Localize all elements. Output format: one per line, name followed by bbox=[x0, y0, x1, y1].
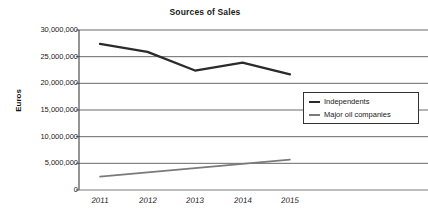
legend-label-independents: Independents bbox=[324, 97, 369, 106]
series-line bbox=[100, 160, 290, 177]
legend-item-major-oil-companies[interactable]: Major oil companies bbox=[306, 108, 418, 121]
x-axis-tick-label: 2012 bbox=[127, 196, 168, 205]
legend-label-major-oil-companies: Major oil companies bbox=[324, 110, 391, 119]
x-axis-tick-label: 2014 bbox=[222, 196, 263, 205]
x-axis-tick-label: 2011 bbox=[80, 196, 121, 205]
line-chart: Sources of Sales Euros 05,000,00010,000,… bbox=[0, 0, 428, 218]
x-axis-tick-label: 2015 bbox=[270, 196, 311, 205]
legend-swatch-independents bbox=[309, 101, 320, 103]
legend[interactable]: Independents Major oil companies bbox=[303, 92, 419, 124]
legend-item-independents[interactable]: Independents bbox=[306, 95, 418, 108]
series-line bbox=[100, 44, 290, 74]
legend-swatch-major-oil-companies bbox=[309, 114, 320, 116]
x-axis-tick-label: 2013 bbox=[175, 196, 216, 205]
